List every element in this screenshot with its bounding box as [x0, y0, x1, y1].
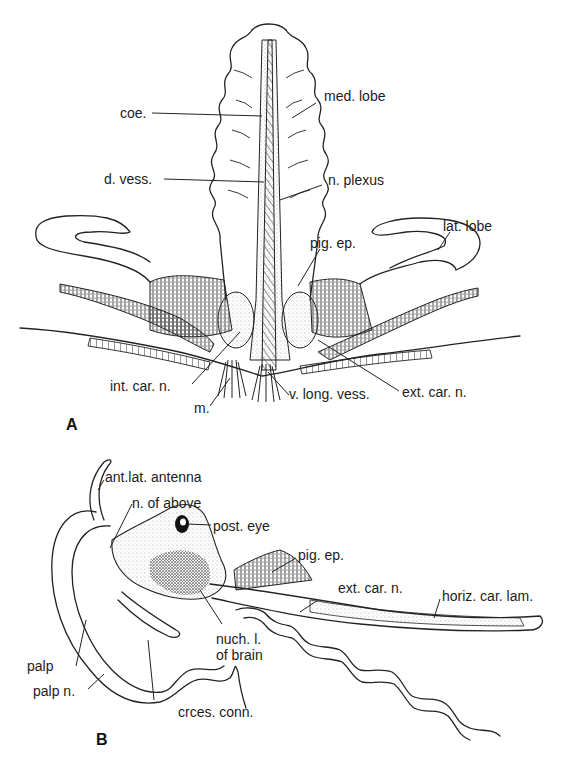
label-ext-car-n-a: ext. car. n.: [402, 384, 467, 400]
panel-label-b: B: [96, 731, 108, 749]
label-pig-ep-a: pig. ep.: [310, 235, 356, 251]
label-horiz-car-lam: horiz. car. lam.: [442, 588, 533, 604]
label-d-vess: d. vess.: [104, 171, 152, 187]
panel-a-drawing: [20, 24, 520, 406]
label-crces-conn: crces. conn.: [178, 704, 253, 720]
label-palp-n: palp n.: [33, 683, 75, 699]
anatomical-figure: coe. med. lobe d. vess. n. plexus lat. l…: [0, 0, 573, 758]
label-m: m.: [194, 400, 210, 416]
label-post-eye: post. eye: [213, 518, 270, 534]
lat-lobe-left: [36, 216, 150, 282]
label-palp: palp: [27, 658, 53, 674]
figure-drawing: [0, 0, 573, 758]
label-ant-lat-antenna: ant.lat. antenna: [105, 469, 202, 485]
label-coe: coe.: [120, 105, 146, 121]
label-of-brain: of brain: [216, 647, 263, 663]
label-med-lobe: med. lobe: [324, 88, 385, 104]
label-int-car-n: int. car. n.: [110, 378, 171, 394]
label-pig-ep-b: pig. ep.: [298, 547, 344, 563]
pig-ep-right: [310, 279, 372, 337]
label-n-of-above: n. of above: [132, 495, 201, 511]
label-v-long-vess: v. long. vess.: [289, 386, 370, 402]
panel-label-a: A: [66, 416, 78, 434]
label-lat-lobe: lat. lobe: [443, 218, 492, 234]
label-n-plexus: n. plexus: [328, 172, 384, 188]
label-ext-car-n-b: ext. car. n.: [338, 580, 403, 596]
label-nuch-l: nuch. l.: [216, 631, 261, 647]
